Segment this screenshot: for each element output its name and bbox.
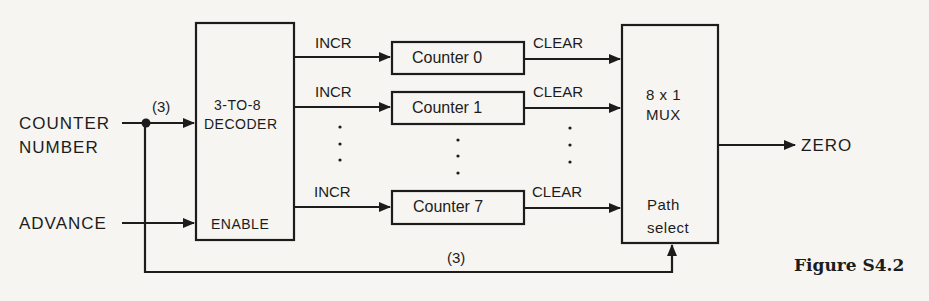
clear-0-label: CLEAR	[533, 35, 583, 50]
mux-select-label-line2: select	[647, 220, 689, 235]
counter-number-label-line1: COUNTER	[19, 115, 110, 132]
counter-0-name: Counter 0	[412, 50, 482, 66]
incr-7-label: INCR	[314, 184, 351, 199]
advance-label: ADVANCE	[19, 215, 107, 232]
mux-title-line2: MUX	[646, 107, 681, 122]
decoder-title-line1: 3-TO-8	[214, 98, 261, 112]
counter-number-label-line2: NUMBER	[19, 139, 99, 156]
incr-0-label: INCR	[315, 35, 352, 50]
figure-caption: Figure S4.2	[794, 257, 904, 274]
junction-dot	[142, 119, 151, 128]
mux-select-label-line1: Path	[647, 197, 680, 212]
mux-title-line1: 8 x 1	[646, 87, 681, 102]
decoder-enable-label: ENABLE	[211, 217, 269, 231]
bus-width-bottom-label: (3)	[447, 250, 465, 265]
clear-7-label: CLEAR	[532, 184, 582, 199]
incr-1-label: INCR	[315, 84, 352, 99]
counter-1-name: Counter 1	[412, 100, 482, 116]
counter-7-name: Counter 7	[413, 199, 483, 215]
bus-width-top-label: (3)	[152, 99, 170, 114]
decoder-title-line2: DECODER	[204, 117, 278, 131]
ellipsis-dots	[338, 125, 571, 174]
zero-output-label: ZERO	[801, 137, 852, 154]
clear-1-label: CLEAR	[533, 84, 583, 99]
select-bus-wire	[145, 123, 672, 272]
